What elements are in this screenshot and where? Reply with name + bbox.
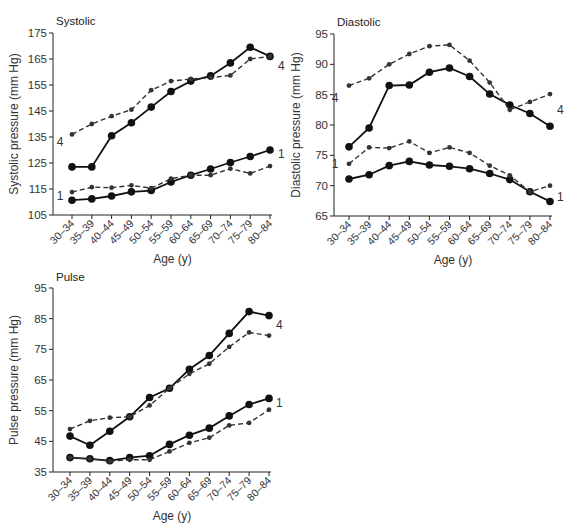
- axes: [334, 34, 552, 216]
- x-axis-title: Age (y): [153, 509, 192, 523]
- data-point: [365, 171, 373, 179]
- y-tick-label: 115: [29, 183, 47, 195]
- data-point: [70, 190, 75, 195]
- data-point: [267, 407, 272, 412]
- data-point: [546, 198, 554, 206]
- data-point: [548, 183, 553, 188]
- series-label: 4: [57, 135, 64, 149]
- data-point: [245, 308, 253, 316]
- data-point: [127, 414, 132, 419]
- series-dashed-1: [70, 164, 273, 195]
- series-line: [72, 150, 270, 200]
- data-point: [447, 43, 452, 48]
- data-point: [228, 73, 233, 78]
- panel-title: Diastolic: [337, 16, 381, 28]
- blood-pressure-figure: 10511512513514515516517530–3435–3940–444…: [0, 0, 575, 529]
- data-point: [147, 103, 155, 111]
- data-point: [486, 170, 494, 178]
- data-point: [268, 54, 273, 59]
- data-point: [127, 457, 132, 462]
- series-line: [72, 56, 270, 134]
- y-tick-label: 165: [28, 53, 47, 65]
- data-point: [268, 164, 273, 169]
- data-point: [385, 82, 393, 90]
- data-point: [88, 195, 96, 203]
- y-tick-label: 135: [28, 131, 47, 143]
- data-point: [248, 171, 253, 176]
- series-line: [70, 312, 269, 446]
- data-point: [466, 165, 474, 173]
- data-point: [88, 456, 93, 461]
- data-point: [68, 196, 76, 204]
- data-point: [507, 173, 512, 178]
- systolic-chart: 10511512513514515516517530–3435–3940–444…: [7, 15, 285, 266]
- y-tick-label: 55: [34, 405, 47, 417]
- y-tick-label: 65: [34, 374, 47, 386]
- y-tick-label: 145: [28, 105, 47, 117]
- data-point: [246, 44, 254, 52]
- data-point: [528, 189, 533, 194]
- data-point: [365, 124, 373, 132]
- data-point: [68, 163, 76, 171]
- series-solid-4: [66, 308, 273, 449]
- data-point: [169, 176, 174, 181]
- y-tick-label: 95: [315, 28, 328, 40]
- data-point: [426, 161, 434, 169]
- series-line: [349, 45, 550, 110]
- data-point: [407, 139, 412, 144]
- data-point: [108, 132, 116, 140]
- data-point: [225, 330, 233, 338]
- data-point: [109, 185, 114, 190]
- data-point: [188, 77, 193, 82]
- data-point: [68, 455, 73, 460]
- data-point: [206, 424, 214, 432]
- data-point: [347, 83, 352, 88]
- data-point: [108, 192, 116, 200]
- data-point: [227, 159, 235, 167]
- series-label: 1: [332, 157, 339, 171]
- pulse-chart: 3545556575859530–3435–3940–4445–4950–545…: [7, 271, 283, 523]
- data-point: [107, 415, 112, 420]
- data-point: [548, 92, 553, 97]
- data-point: [467, 151, 472, 156]
- data-point: [446, 64, 454, 72]
- data-point: [265, 395, 273, 403]
- y-tick-label: 80: [315, 119, 328, 131]
- data-point: [227, 344, 232, 349]
- data-point: [68, 427, 73, 432]
- data-point: [89, 185, 94, 190]
- y-tick-label: 75: [34, 343, 47, 355]
- data-point: [507, 107, 512, 112]
- data-point: [247, 330, 252, 335]
- y-tick-label: 35: [34, 466, 47, 478]
- data-point: [248, 57, 253, 62]
- data-point: [149, 186, 154, 191]
- data-point: [207, 361, 212, 366]
- x-axis-title: Age (y): [153, 252, 192, 266]
- data-point: [206, 352, 214, 360]
- data-point: [208, 75, 213, 80]
- series-solid-1: [345, 158, 554, 206]
- data-point: [407, 52, 412, 57]
- data-point: [109, 114, 114, 119]
- data-point: [129, 183, 134, 188]
- data-point: [546, 122, 554, 130]
- series-dashed-4: [68, 330, 272, 431]
- panel-title: Pulse: [56, 271, 85, 283]
- series-label: 4: [557, 103, 564, 117]
- series-label: 1: [276, 396, 283, 410]
- series-label: 1: [278, 147, 285, 161]
- data-point: [207, 165, 215, 173]
- data-point: [146, 394, 154, 402]
- x-axis-title: Age (y): [434, 253, 473, 267]
- y-tick-label: 85: [315, 89, 328, 101]
- y-tick-label: 75: [315, 149, 328, 161]
- y-tick-label: 155: [28, 79, 47, 91]
- data-point: [227, 423, 232, 428]
- series-label: 1: [57, 189, 64, 203]
- series-dashed-4: [347, 43, 553, 113]
- series-dashed-4: [70, 54, 273, 137]
- data-point: [446, 162, 454, 170]
- data-point: [406, 158, 414, 166]
- data-point: [186, 431, 194, 439]
